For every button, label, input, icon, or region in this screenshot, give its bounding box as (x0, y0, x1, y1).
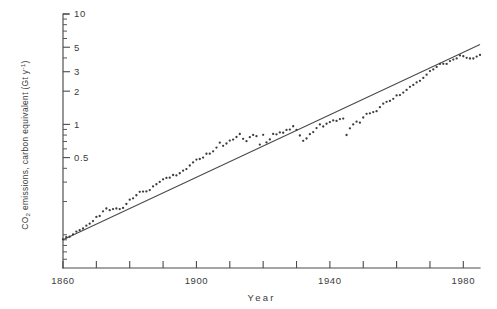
data-point (165, 177, 167, 179)
data-point (309, 133, 311, 135)
data-point (325, 123, 327, 125)
data-point (312, 131, 314, 133)
data-point (469, 57, 471, 59)
data-point (125, 203, 127, 205)
data-point (279, 131, 281, 133)
data-point (69, 236, 71, 238)
x-axis-title: Year (248, 292, 276, 303)
data-point (342, 117, 344, 119)
data-point (169, 177, 171, 179)
y-tick-label: 5 (74, 42, 80, 53)
data-point (272, 133, 274, 135)
data-point (99, 215, 101, 217)
data-point (379, 106, 381, 108)
data-point (182, 170, 184, 172)
data-point (395, 94, 397, 96)
data-point (392, 98, 394, 100)
data-point (359, 122, 361, 124)
data-point (275, 133, 277, 135)
data-point (112, 208, 114, 210)
data-point (159, 181, 161, 183)
y-tick-label: 3 (74, 66, 80, 77)
data-point (339, 118, 341, 120)
data-point (239, 133, 241, 135)
y-axis-title: CO2 emissions, carbon equivalent (Gt y-1… (19, 60, 31, 229)
data-point (155, 183, 157, 185)
data-point (305, 137, 307, 139)
trend-line (63, 44, 480, 239)
data-point (449, 60, 451, 62)
data-point (456, 57, 458, 59)
data-point (185, 168, 187, 170)
data-point (162, 178, 164, 180)
data-point (105, 207, 107, 209)
data-point (132, 197, 134, 199)
data-point (219, 142, 221, 144)
data-point (115, 207, 117, 209)
data-point (289, 128, 291, 130)
data-point (402, 91, 404, 93)
data-point (139, 191, 141, 193)
y-tick-label: 0.5 (74, 152, 89, 163)
data-point (195, 158, 197, 160)
data-point (225, 142, 227, 144)
data-point (319, 123, 321, 125)
data-point (172, 174, 174, 176)
data-point (355, 120, 357, 122)
data-point (95, 216, 97, 218)
data-point (215, 146, 217, 148)
data-point (419, 80, 421, 82)
data-point (102, 210, 104, 212)
data-point (262, 134, 264, 136)
data-point (462, 55, 464, 57)
data-point (472, 57, 474, 59)
data-point (122, 207, 124, 209)
x-tick-label: 1940 (318, 275, 342, 286)
data-point (202, 156, 204, 158)
data-point (479, 54, 481, 56)
data-point (252, 134, 254, 136)
data-point (205, 153, 207, 155)
data-point (375, 110, 377, 112)
data-point (85, 224, 87, 226)
data-point (192, 161, 194, 163)
data-point (389, 100, 391, 102)
data-point (82, 227, 84, 229)
data-point (212, 150, 214, 152)
data-point (415, 81, 417, 83)
data-point (315, 127, 317, 129)
data-point (175, 174, 177, 176)
data-point (149, 189, 151, 191)
data-point (466, 57, 468, 59)
data-point (129, 199, 131, 201)
x-tick-label: 1900 (185, 275, 209, 286)
y-tick-label: 10 (74, 8, 86, 19)
data-point (152, 185, 154, 187)
data-point (232, 138, 234, 140)
y-axis-title-text: CO2 emissions, carbon equivalent (Gt y-1… (19, 60, 31, 229)
data-point (222, 145, 224, 147)
y-tick-label: 1 (74, 119, 80, 130)
data-point (332, 119, 334, 121)
data-point (285, 129, 287, 131)
x-tick-label: 1980 (452, 275, 476, 286)
data-point (352, 123, 354, 125)
data-point (335, 120, 337, 122)
data-point (299, 134, 301, 136)
data-point (302, 140, 304, 142)
data-point (259, 143, 261, 145)
data-point (269, 138, 271, 140)
data-point (322, 125, 324, 127)
data-point (425, 74, 427, 76)
data-point (369, 112, 371, 114)
data-point (382, 103, 384, 105)
data-point (442, 63, 444, 65)
data-point (429, 70, 431, 72)
data-point (329, 121, 331, 123)
data-point (145, 190, 147, 192)
data-point (282, 132, 284, 134)
data-point (72, 233, 74, 235)
emissions-chart: 1053210.51860190019401980YearCO2 emissio… (0, 0, 497, 309)
y-tick-label: 2 (74, 86, 80, 97)
data-point (295, 129, 297, 131)
